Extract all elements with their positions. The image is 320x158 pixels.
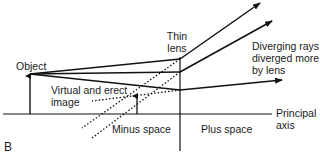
principal-label-line-1: Principal bbox=[276, 107, 316, 119]
principal-label-line-2: axis bbox=[276, 119, 316, 131]
thin-lens-label-line-2: lens bbox=[160, 42, 194, 54]
thin-lens-label-line-1: Thin bbox=[160, 30, 194, 42]
diverging-label-line-2: diverged more bbox=[252, 52, 319, 64]
principal-axis-label: Principal axis bbox=[276, 107, 316, 131]
virtual-label-line-1: Virtual and erect bbox=[51, 84, 127, 96]
object-label: Object bbox=[16, 60, 46, 72]
diverging-label-line-1: Diverging rays bbox=[252, 40, 319, 52]
virtual-image-label: Virtual and erect image bbox=[51, 84, 127, 108]
minus-space-label: Minus space bbox=[112, 123, 171, 135]
thin-lens-label: Thin lens bbox=[160, 30, 194, 54]
virtual-label-line-2: image bbox=[51, 96, 127, 108]
diverging-rays-label: Diverging rays diverged more by lens bbox=[252, 40, 319, 76]
plus-space-label: Plus space bbox=[201, 123, 252, 135]
diverging-label-line-3: by lens bbox=[252, 64, 319, 76]
panel-label: B bbox=[4, 141, 12, 153]
